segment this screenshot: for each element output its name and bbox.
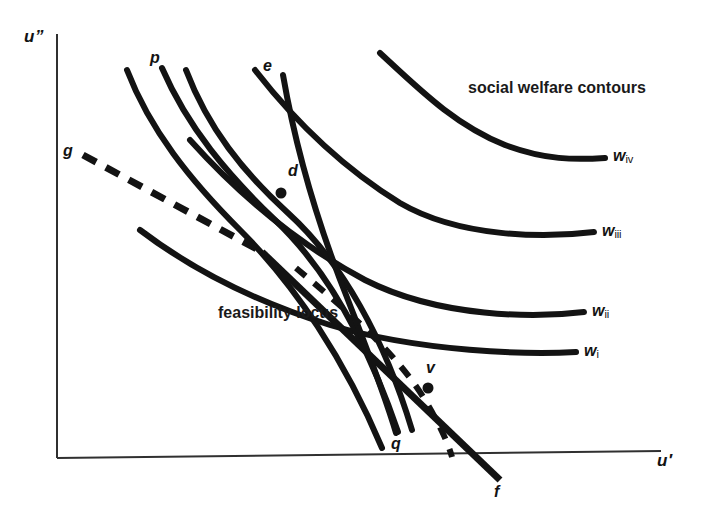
- x-axis: [57, 451, 661, 458]
- economics-diagram: u” u′ g p e d q v f wiv wiii wii wi soci…: [0, 0, 717, 518]
- label-w-iii: wiii: [602, 223, 621, 239]
- label-w-i: wi: [584, 343, 599, 359]
- contour-w-ii: [190, 140, 584, 315]
- point-v-marker: [423, 383, 434, 394]
- curve-p: [162, 68, 398, 432]
- label-w-i-sub: i: [596, 348, 598, 360]
- label-w-iv-sub: iv: [625, 153, 633, 165]
- label-w-iii-base: w: [602, 222, 614, 239]
- y-axis-label: u”: [24, 28, 44, 45]
- label-w-iv: wiv: [613, 148, 633, 164]
- label-w-iv-base: w: [613, 147, 625, 164]
- tangent-dashed-segment: [83, 155, 266, 254]
- label-g: g: [63, 143, 73, 159]
- label-q: q: [391, 436, 401, 452]
- label-d: d: [288, 163, 298, 179]
- contour-w-iv: [380, 53, 605, 159]
- label-v: v: [426, 360, 435, 376]
- diagram-canvas: [0, 0, 717, 518]
- curve-leftmost: [127, 70, 382, 448]
- label-f: f: [494, 484, 499, 500]
- frontier-e-q: [283, 75, 396, 433]
- label-e: e: [263, 58, 272, 74]
- curve-e: [283, 75, 396, 433]
- label-w-iii-sub: iii: [614, 228, 621, 240]
- x-axis-label: u′: [657, 452, 672, 469]
- label-w-i-base: w: [584, 342, 596, 359]
- point-d-marker: [276, 188, 287, 199]
- annotation-feasibility-locus: feasibility locus: [218, 305, 338, 321]
- label-w-ii-base: w: [592, 302, 604, 319]
- annotation-social-welfare-contours: social welfare contours: [468, 80, 646, 96]
- label-w-ii-sub: ii: [604, 308, 609, 320]
- social-welfare-contours: [140, 53, 605, 353]
- label-w-ii: wii: [592, 303, 609, 319]
- label-p: p: [150, 50, 160, 66]
